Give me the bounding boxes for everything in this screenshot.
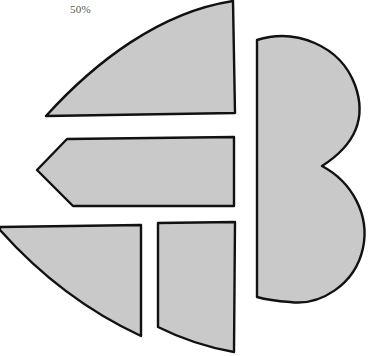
puzzle-diagram [0,0,375,356]
bottom-middle-piece [158,222,235,352]
bottom-left-piece [0,225,141,336]
right-heart-piece [257,36,365,302]
middle-arrow-piece [37,137,234,206]
top-quarter-piece [46,1,235,116]
